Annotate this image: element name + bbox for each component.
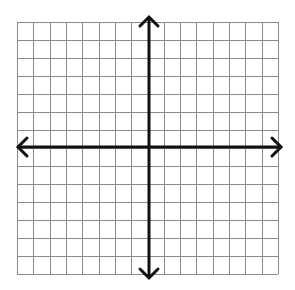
coordinate-plane — [0, 0, 295, 290]
